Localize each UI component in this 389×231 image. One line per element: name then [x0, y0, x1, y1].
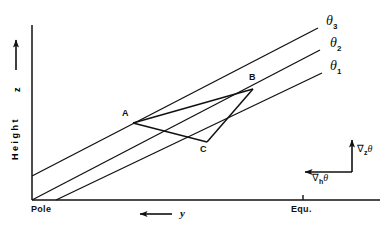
y-axis-caption: Height: [10, 117, 20, 160]
isentrope-lines: [32, 28, 322, 200]
isentropic-slope-diagram: θ3 θ2 θ1 A B C Height z Pole Equ. y ∇zθ …: [0, 0, 389, 231]
x-axis-left-label: Pole: [31, 205, 51, 214]
point-label-a: A: [122, 109, 129, 118]
point-label-c: C: [200, 145, 207, 154]
isentrope-theta-3: [32, 28, 318, 176]
isentrope-theta-1: [56, 73, 322, 200]
vertical-gradient-label: ∇zθ: [357, 144, 372, 156]
point-label-b: B: [249, 73, 256, 82]
isentrope-label-theta-2: θ2: [330, 36, 341, 53]
segment-a-b: [133, 89, 253, 123]
x-axis-right-label: Equ.: [291, 205, 312, 214]
x-axis-symbol: y: [180, 208, 185, 219]
gradient-key-vectors: [305, 140, 352, 172]
horizontal-gradient-label: ∇hθ: [312, 173, 328, 185]
isentrope-label-theta-1: θ1: [330, 59, 341, 76]
isentrope-theta-2: [32, 50, 320, 200]
y-axis-symbol: z: [12, 88, 22, 93]
isentrope-label-theta-3: θ3: [326, 14, 337, 31]
